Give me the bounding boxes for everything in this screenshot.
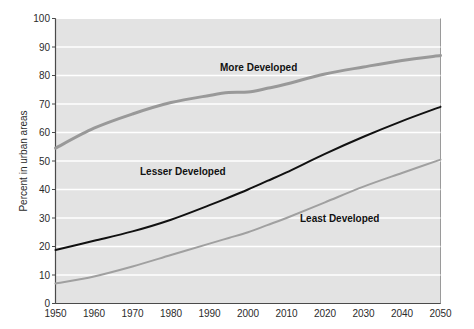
x-tick-label-2000: 2000 bbox=[237, 308, 260, 319]
x-tick-label-1950: 1950 bbox=[44, 308, 67, 319]
x-tick-label-2050: 2050 bbox=[429, 308, 452, 319]
x-tick-label-2040: 2040 bbox=[391, 308, 414, 319]
y-tick-label-30: 30 bbox=[39, 213, 51, 224]
x-tick-label-1990: 1990 bbox=[198, 308, 221, 319]
y-axis-title: Percent in urban areas bbox=[18, 110, 29, 211]
series-annotation-more-developed: More Developed bbox=[220, 62, 297, 73]
x-tick-label-2030: 2030 bbox=[352, 308, 375, 319]
series-annotation-least-developed: Least Developed bbox=[300, 213, 379, 224]
x-tick-label-1970: 1970 bbox=[121, 308, 144, 319]
y-tick-label-70: 70 bbox=[39, 99, 51, 110]
y-tick-label-90: 90 bbox=[39, 42, 51, 53]
y-tick-label-20: 20 bbox=[39, 241, 51, 252]
x-tick-label-2020: 2020 bbox=[314, 308, 337, 319]
y-tick-label-80: 80 bbox=[39, 70, 51, 81]
series-annotation-lesser-developed: Lesser Developed bbox=[140, 166, 226, 177]
y-tick-label-40: 40 bbox=[39, 184, 51, 195]
chart-figure: Percent in urban areas 100 90 80 70 60 5… bbox=[0, 0, 474, 329]
y-tick-label-60: 60 bbox=[39, 127, 51, 138]
urbanization-line-chart: Percent in urban areas 100 90 80 70 60 5… bbox=[0, 0, 474, 329]
x-tick-label-1960: 1960 bbox=[83, 308, 106, 319]
y-tick-label-50: 50 bbox=[39, 156, 51, 167]
y-tick-label-100: 100 bbox=[33, 13, 50, 24]
x-tick-label-1980: 1980 bbox=[160, 308, 183, 319]
y-tick-label-10: 10 bbox=[39, 270, 51, 281]
x-tick-label-2010: 2010 bbox=[275, 308, 298, 319]
